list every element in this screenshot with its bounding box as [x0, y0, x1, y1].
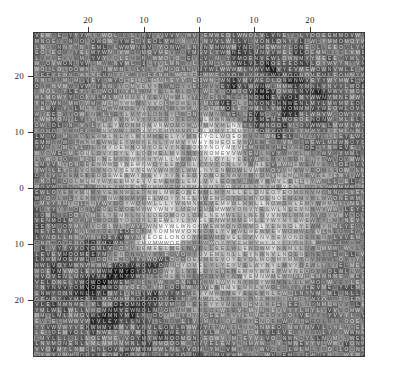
y-gridline [34, 132, 364, 133]
x-gridline [310, 33, 311, 356]
y-axis-line [199, 33, 200, 356]
y-gridline [34, 76, 364, 77]
x-tick-label: 20 [83, 15, 93, 25]
figure-canvas: 20 10 0 10 20 20 10 0 10 20 [0, 0, 393, 383]
x-axis-line [34, 188, 364, 189]
y-tick-label: 20 [14, 71, 24, 81]
y-gridline [34, 244, 364, 245]
y-tick-label: 0 [19, 183, 24, 193]
plot-area [33, 32, 365, 357]
x-gridline [254, 33, 255, 356]
x-gridline [144, 33, 145, 356]
x-tick-label: 10 [139, 15, 149, 25]
y-gridline [34, 300, 364, 301]
x-tick-label: 10 [249, 15, 259, 25]
y-tick-label: 10 [14, 239, 24, 249]
x-tick-label: 20 [305, 15, 315, 25]
y-tick-label: 20 [14, 295, 24, 305]
x-tick-label: 0 [197, 15, 202, 25]
y-tick-label: 10 [14, 127, 24, 137]
x-gridline [88, 33, 89, 356]
